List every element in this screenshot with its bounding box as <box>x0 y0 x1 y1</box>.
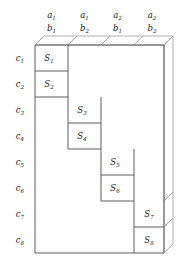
column-header-3-bottom: b2 <box>147 23 156 34</box>
cell-label-s2: S2 <box>44 79 54 90</box>
three-d-depth-faces <box>35 36 173 253</box>
column-header-1-bottom: b2 <box>80 23 89 34</box>
staircase-boundary <box>35 45 134 253</box>
row-header-1: c2 <box>16 79 25 90</box>
column-header-1-top: a1 <box>80 10 89 21</box>
row-header-2: c3 <box>16 105 25 116</box>
cell-label-s1: S1 <box>44 53 53 64</box>
column-header-2-top: a2 <box>113 10 122 21</box>
cell-label-s5: S5 <box>110 157 120 168</box>
row-headers: c1 c2 c3 c4 c5 c6 c7 c8 <box>16 53 25 246</box>
row-header-3: c4 <box>16 131 25 142</box>
cell-label-s3: S3 <box>77 105 87 116</box>
row-header-6: c7 <box>16 209 25 220</box>
cell-labels: S1 S2 S3 S4 S5 S6 S7 S8 <box>44 53 154 246</box>
staircase-diagram-svg: a1 b1 a1 b2 a2 b1 a2 b2 <box>0 0 177 260</box>
top-depth-face <box>35 36 173 45</box>
column-header-0-bottom: b1 <box>47 23 56 34</box>
column-header-2-bottom: b1 <box>113 23 122 34</box>
column-header-0-top: a1 <box>47 10 56 21</box>
column-header-3-top: a2 <box>148 10 157 21</box>
diagram-root: a1 b1 a1 b2 a2 b1 a2 b2 <box>0 0 177 260</box>
column-headers: a1 b1 a1 b2 a2 b1 a2 b2 <box>47 10 157 34</box>
cell-label-s4: S4 <box>77 131 87 142</box>
cell-label-s7: S7 <box>144 209 154 220</box>
row-header-5: c6 <box>16 183 25 194</box>
row-header-7: c8 <box>16 235 25 246</box>
row-header-4: c5 <box>16 157 25 168</box>
row-header-0: c1 <box>16 53 24 64</box>
cell-label-s6: S6 <box>110 183 120 194</box>
cell-label-s8: S8 <box>144 235 154 246</box>
right-depth-face-upper <box>164 36 173 201</box>
